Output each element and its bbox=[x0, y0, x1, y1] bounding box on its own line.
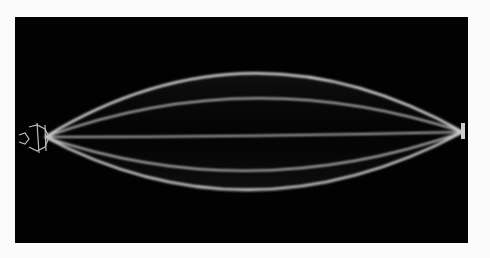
right-clamp bbox=[461, 123, 465, 139]
string-vibration-image bbox=[15, 17, 468, 243]
photo-frame bbox=[15, 17, 468, 243]
